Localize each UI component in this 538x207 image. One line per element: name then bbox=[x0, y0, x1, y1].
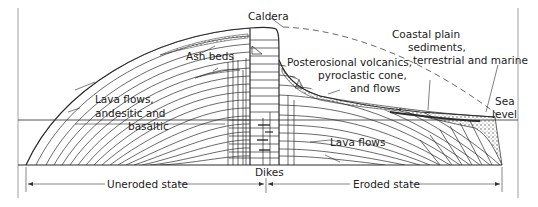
label-eroded-state: Eroded state bbox=[353, 178, 420, 190]
label-posterosional-1: Posterosional volcanics, bbox=[287, 56, 412, 68]
label-level: level bbox=[492, 108, 517, 120]
label-caldera: Caldera bbox=[248, 10, 289, 22]
arrow-head bbox=[259, 182, 264, 186]
label-coastal-2: sediments, bbox=[408, 41, 466, 53]
label-coastal-1: Coastal plain bbox=[392, 28, 460, 40]
label-coastal-3: terrestrial and marine bbox=[413, 54, 528, 66]
central-conduit bbox=[250, 27, 279, 165]
label-sea: Sea bbox=[495, 95, 515, 107]
arrow-head bbox=[268, 182, 273, 186]
label-ash-beds: Ash beds bbox=[186, 50, 234, 62]
volcano-cross-section-diagram: Caldera Ash beds Lava flows, andesitic a… bbox=[0, 0, 538, 207]
label-posterosional-3: and flows bbox=[350, 82, 400, 94]
label-lava-flows-1: Lava flows, bbox=[95, 93, 154, 105]
label-uneroded-state: Uneroded state bbox=[107, 178, 188, 190]
label-lava-flows-3: basaltic bbox=[128, 120, 169, 132]
label-dikes: Dikes bbox=[255, 166, 284, 178]
arrow-head bbox=[495, 182, 500, 186]
label-lava-flows-2: andesitic and bbox=[95, 107, 166, 119]
label-posterosional-2: pyroclastic cone, bbox=[318, 69, 407, 81]
arrow-head bbox=[28, 182, 33, 186]
label-lava-flows-right: Lava flows bbox=[330, 136, 385, 148]
